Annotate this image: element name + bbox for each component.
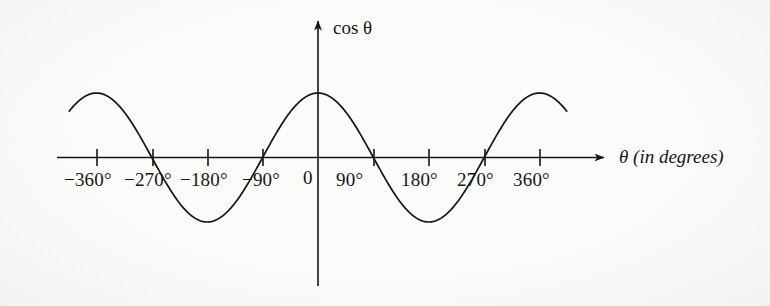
y-axis-title: cos θ bbox=[333, 18, 372, 37]
figure-canvas: −360° −270° −180° −90° 0 90° 180° 270° 3… bbox=[0, 0, 770, 306]
xtick-label-90: 90° bbox=[336, 170, 363, 189]
xtick-label-360: 360° bbox=[513, 170, 550, 189]
xtick-label-minus-270: −270° bbox=[124, 170, 172, 189]
xtick-label-270: 270° bbox=[457, 170, 494, 189]
xtick-label-minus-180: −180° bbox=[180, 170, 228, 189]
xtick-label-180: 180° bbox=[401, 170, 438, 189]
origin-label: 0 bbox=[303, 168, 313, 187]
xtick-label-minus-360: −360° bbox=[64, 170, 112, 189]
xtick-label-minus-90: −90° bbox=[242, 170, 280, 189]
x-axis-title: θ (in degrees) bbox=[619, 147, 724, 166]
